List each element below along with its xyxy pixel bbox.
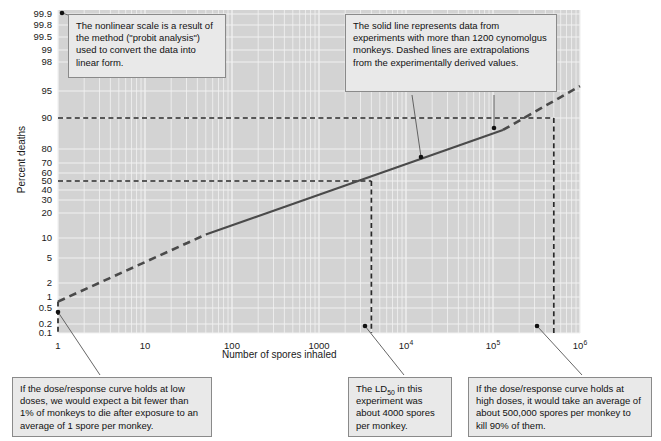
annotation-ld50-note: The LD50 in this experiment was about 40…: [348, 377, 452, 437]
y-axis-tick-label: 10: [0, 233, 52, 243]
annotation-solid-line-note: The solid line represents data from expe…: [345, 14, 557, 92]
y-axis-title: Percent deaths: [16, 115, 27, 205]
y-axis-tick-label: 2: [0, 278, 52, 288]
chart-figure: 99.999.899.59998959080706050403020105210…: [0, 0, 661, 441]
y-axis-tick-label: 20: [0, 208, 52, 218]
annotation-probit-note: The nonlinear scale is a result of the m…: [68, 14, 226, 78]
x-axis-tick-label: 10: [140, 341, 151, 351]
leader-low-dose-note-dot: [56, 310, 61, 315]
leader-high-dose-note-dot: [535, 324, 540, 329]
y-axis-tick-label: 0.1: [0, 328, 52, 338]
y-axis-tick-label: 95: [0, 86, 52, 96]
y-axis-tick-label: 1: [0, 292, 52, 302]
x-axis-tick-label: 1: [55, 341, 60, 351]
x-axis-tick-label: 104: [399, 341, 413, 351]
y-axis-tick-label: 99.9: [0, 9, 52, 19]
x-axis-tick-label: 105: [486, 341, 500, 351]
leader-solid-line-note-dot: [419, 155, 424, 160]
leader-dashed-note-dot: [492, 126, 497, 131]
x-axis-title: Number of spores inhaled: [222, 349, 337, 360]
ld50-note-pre: The LD: [356, 383, 387, 394]
x-axis-tick-label: 106: [573, 341, 587, 351]
annotation-low-dose-note: If the dose/response curve holds at low …: [12, 377, 212, 437]
y-axis-tick-label: 99.5: [0, 32, 52, 42]
y-axis-tick-label: 99.8: [0, 20, 52, 30]
annotation-high-dose-note: If the dose/response curve holds at high…: [468, 377, 652, 437]
y-axis-tick-label: 99: [0, 45, 52, 55]
leader-ld50-note-dot: [363, 324, 368, 329]
y-axis-tick-label: 5: [0, 253, 52, 263]
leader-probit-note-dot: [60, 11, 65, 16]
y-axis-tick-label: 98: [0, 57, 52, 67]
y-axis-tick-label: 0.5: [0, 303, 52, 313]
